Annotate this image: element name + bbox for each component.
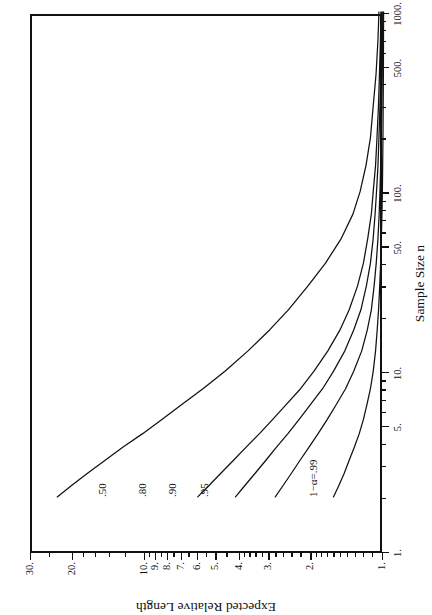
y-tick	[173, 553, 174, 557]
x-tick	[382, 201, 386, 202]
y-tick	[316, 553, 317, 557]
x-tick	[382, 372, 389, 373]
y-tick	[283, 553, 284, 557]
x-tick	[382, 498, 386, 499]
x-tick-label: 100.	[393, 184, 404, 202]
curve-label: .80	[136, 483, 148, 497]
x-tick	[382, 84, 386, 85]
series-line	[198, 12, 381, 497]
x-tick	[382, 400, 386, 401]
y-tick-label: 3.	[263, 562, 274, 587]
y-tick	[167, 553, 168, 560]
x-tick	[382, 466, 386, 467]
y-tick	[49, 553, 50, 557]
x-tick-label: 5.	[393, 423, 404, 431]
y-tick	[144, 553, 145, 560]
y-tick	[268, 553, 269, 560]
y-tick-label: 10.	[138, 562, 149, 587]
y-tick	[188, 553, 189, 557]
x-axis-title: Sample Size n	[412, 245, 428, 322]
y-tick	[206, 553, 207, 557]
x-tick	[382, 41, 386, 42]
x-tick	[382, 426, 389, 427]
x-tick	[382, 264, 386, 265]
series-line	[333, 12, 383, 497]
y-tick	[300, 553, 301, 557]
y-tick	[30, 553, 31, 560]
x-tick	[382, 246, 389, 247]
y-tick	[215, 553, 216, 560]
y-tick	[249, 553, 250, 557]
y-tick-label: 4.	[233, 562, 244, 587]
y-tick	[327, 553, 328, 557]
y-tick	[275, 553, 276, 557]
y-tick-label: 5.	[210, 562, 221, 587]
y-tick	[155, 553, 156, 560]
y-tick	[197, 553, 198, 560]
y-tick-label: 9.	[149, 562, 160, 587]
curve-label: .50	[96, 483, 108, 497]
y-tick	[125, 553, 126, 557]
y-tick	[244, 553, 245, 557]
curve-label: .95	[198, 483, 210, 497]
y-tick	[109, 553, 110, 557]
y-tick	[321, 553, 322, 557]
x-tick	[382, 192, 389, 193]
x-tick-label: 50.	[393, 241, 404, 254]
y-tick	[347, 553, 348, 557]
series-line	[275, 12, 383, 497]
x-tick	[382, 21, 386, 22]
y-tick	[255, 553, 256, 557]
y-tick	[181, 553, 182, 560]
y-tick-label: 20.	[67, 562, 78, 587]
x-tick-label: 500.	[393, 59, 404, 77]
x-tick	[382, 107, 386, 108]
y-tick	[363, 553, 364, 557]
x-tick	[382, 210, 386, 211]
curves-layer	[32, 12, 384, 551]
y-tick-label: 30.	[25, 562, 36, 587]
x-tick	[382, 232, 386, 233]
y-tick	[372, 553, 373, 557]
x-tick	[382, 412, 386, 413]
y-tick	[310, 553, 311, 560]
y-tick	[333, 553, 334, 557]
y-tick	[239, 553, 240, 560]
y-tick	[355, 553, 356, 557]
x-tick	[382, 13, 389, 14]
y-tick-label: 2.	[305, 562, 316, 587]
y-tick-label: 7.	[175, 562, 186, 587]
curve-label: 1−α=.99	[307, 460, 319, 497]
x-tick	[382, 380, 386, 381]
y-tick-label: 1.	[377, 562, 388, 587]
series-line	[235, 12, 381, 497]
x-tick-label: 1000.	[393, 2, 404, 26]
x-tick	[382, 53, 386, 54]
y-tick	[291, 553, 292, 557]
series-line	[57, 12, 379, 497]
x-tick	[382, 138, 386, 139]
y-axis-title: Expected Relative Length	[136, 599, 276, 615]
x-tick-label: 1.	[393, 549, 404, 557]
y-tick	[149, 553, 150, 557]
y-tick	[382, 553, 383, 560]
x-tick	[382, 220, 386, 221]
y-tick	[226, 553, 227, 557]
y-tick	[262, 553, 263, 557]
y-tick	[95, 553, 96, 557]
y-tick-label: 8.	[162, 562, 173, 587]
y-tick	[83, 553, 84, 557]
x-tick	[382, 444, 386, 445]
y-tick	[161, 553, 162, 557]
y-tick-label: 6.	[191, 562, 202, 587]
x-tick	[382, 67, 389, 68]
x-tick	[382, 389, 386, 390]
x-tick	[382, 286, 386, 287]
y-tick	[340, 553, 341, 557]
x-tick	[382, 318, 386, 319]
curve-label: .90	[166, 483, 178, 497]
x-tick-label: 10.	[393, 367, 404, 380]
x-tick	[382, 30, 386, 31]
